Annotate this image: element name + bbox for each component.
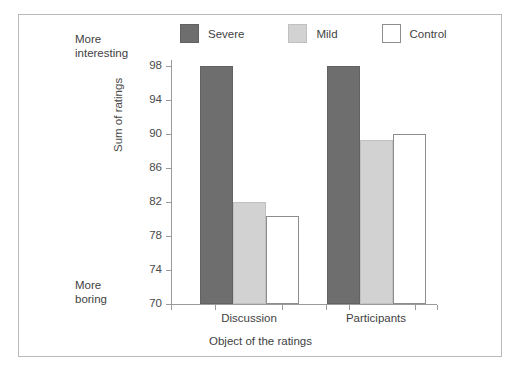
bar-participants-severe <box>327 66 360 304</box>
x-tick-mark <box>349 305 350 310</box>
y-tick-mark <box>166 236 171 237</box>
y-tick-mark <box>166 66 171 67</box>
y-tick-mark <box>166 134 171 135</box>
pole-label-more-boring: More boring <box>75 278 107 306</box>
y-tick-label: 70 <box>149 297 162 309</box>
legend-label-severe: Severe <box>208 28 244 40</box>
bar-discussion-severe <box>200 66 233 304</box>
legend-entry-severe: Severe <box>180 24 244 43</box>
bar-participants-control <box>393 134 426 304</box>
y-tick-label: 82 <box>149 195 162 207</box>
y-tick-label: 78 <box>149 229 162 241</box>
x-category-label-participants: Participants <box>346 312 406 324</box>
pole-label-more-boring-line1: More <box>75 278 107 292</box>
pole-label-more-interesting-line1: More <box>75 32 128 46</box>
legend-entry-mild: Mild <box>288 24 337 43</box>
pole-label-more-interesting-line2: interesting <box>75 46 128 60</box>
x-tick-mark <box>215 305 216 310</box>
y-axis-line <box>171 60 172 305</box>
bar-discussion-control <box>266 216 299 304</box>
x-tick-mark <box>415 305 416 310</box>
legend-swatch-control-icon <box>382 24 401 43</box>
x-axis-title: Object of the ratings <box>0 335 521 347</box>
y-tick-mark <box>166 202 171 203</box>
y-tick-label: 98 <box>149 59 162 71</box>
plot-area: 7074788286909498 <box>171 60 437 305</box>
legend-label-control: Control <box>410 28 447 40</box>
y-tick-label: 74 <box>149 263 162 275</box>
legend-swatch-mild-icon <box>288 24 307 43</box>
y-tick-mark <box>166 100 171 101</box>
bar-participants-mild <box>360 140 393 304</box>
bar-discussion-mild <box>233 202 266 304</box>
y-tick-label: 94 <box>149 93 162 105</box>
y-axis-title: Sum of ratings <box>112 78 124 152</box>
x-tick-mark <box>171 305 172 310</box>
x-tick-mark <box>282 305 283 310</box>
chart-legend: Severe Mild Control <box>180 24 447 43</box>
y-tick-mark <box>166 270 171 271</box>
legend-label-mild: Mild <box>316 28 337 40</box>
y-tick-label: 90 <box>149 127 162 139</box>
pole-label-more-interesting: More interesting <box>75 32 128 60</box>
legend-entry-control: Control <box>382 24 447 43</box>
x-category-label-discussion: Discussion <box>221 312 277 324</box>
legend-swatch-severe-icon <box>180 24 199 43</box>
y-tick-label: 86 <box>149 161 162 173</box>
x-tick-mark <box>326 305 327 310</box>
pole-label-more-boring-line2: boring <box>75 292 107 306</box>
x-tick-mark <box>437 305 438 310</box>
y-tick-mark <box>166 168 171 169</box>
x-axis-line <box>171 304 437 305</box>
